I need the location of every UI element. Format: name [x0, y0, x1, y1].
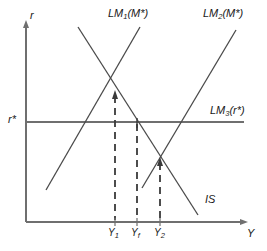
curve-label-is: IS	[205, 194, 215, 205]
is-lm-diagram: r Y r* LM1(M*) LM2(M*) LM3(r*) IS Y1 Yf …	[0, 0, 267, 251]
x-tick-label-y2: Y2	[154, 228, 165, 238]
diagram-canvas	[0, 0, 267, 251]
curve-label-lm3-sub: 3	[225, 109, 229, 118]
x-tick-label-yf-sub: f	[138, 231, 140, 240]
x-axis-arrow-icon	[240, 219, 248, 225]
curve-label-lm1: LM1(M*)	[108, 8, 148, 19]
curve-label-lm2-sub: 2	[218, 12, 222, 21]
y-axis-label: r	[30, 10, 34, 21]
curve-label-lm3-base: LM	[210, 104, 225, 116]
y-axis-arrow-icon	[23, 20, 29, 28]
curve-label-lm1-base: LM	[108, 7, 123, 19]
curve-label-lm3-arg: (r*)	[229, 104, 244, 116]
curve-label-lm2: LM2(M*)	[203, 8, 243, 19]
curve-label-lm2-base: LM	[203, 7, 218, 19]
curve-label-lm1-arg: (M*)	[127, 7, 148, 19]
x-tick-label-yf: Yf	[131, 228, 140, 238]
x-tick-label-y2-base: Y	[154, 227, 161, 238]
arrowhead-y1-icon	[112, 90, 118, 99]
curve-label-lm3: LM3(r*)	[210, 105, 245, 116]
curve-label-lm1-sub: 1	[123, 12, 127, 21]
x-axis-label: Y	[247, 228, 254, 239]
curve-is	[78, 27, 198, 215]
x-tick-label-y1: Y1	[108, 228, 119, 238]
x-tick-label-y2-sub: 2	[161, 231, 165, 240]
r-star-label: r*	[8, 114, 16, 125]
x-tick-label-yf-base: Y	[131, 227, 138, 238]
curve-label-lm2-arg: (M*)	[222, 7, 243, 19]
x-tick-label-y1-base: Y	[108, 227, 115, 238]
x-tick-label-y1-sub: 1	[115, 231, 119, 240]
